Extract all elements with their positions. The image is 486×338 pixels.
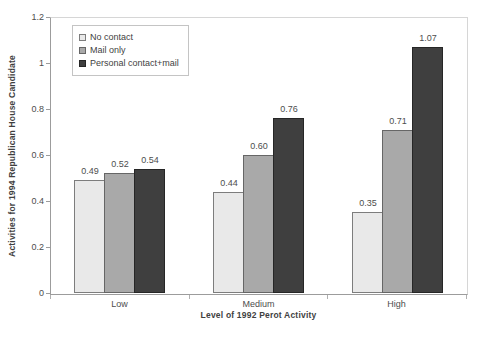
legend-row-personal-contact-mail: Personal contact+mail xyxy=(79,57,179,70)
legend: No contact Mail only Personal contact+ma… xyxy=(72,25,189,76)
y-tick-label: 0.4 xyxy=(0,196,44,207)
y-tick-label: 1.2 xyxy=(0,12,44,23)
y-tick-mark xyxy=(46,109,50,110)
y-tick-label: 0.2 xyxy=(0,242,44,253)
y-tick-mark xyxy=(46,155,50,156)
legend-label-personal-contact-mail: Personal contact+mail xyxy=(90,58,179,69)
y-tick-label: 1 xyxy=(0,58,44,69)
y-tick-label: 0.8 xyxy=(0,104,44,115)
y-tick-mark xyxy=(46,17,50,18)
y-tick-mark xyxy=(46,247,50,248)
y-tick-mark xyxy=(46,63,50,64)
legend-swatch-no-contact xyxy=(79,34,86,41)
legend-swatch-personal-contact-mail xyxy=(79,60,86,67)
y-tick-mark xyxy=(46,201,50,202)
bar-low-1 xyxy=(74,180,105,293)
bar-value-label: 0.76 xyxy=(269,104,309,115)
bar-high-1 xyxy=(352,212,383,293)
bar-medium-2 xyxy=(243,155,274,293)
bar-low-3 xyxy=(134,169,165,293)
bar-value-label: 0.54 xyxy=(130,155,170,166)
y-tick-label: 0.6 xyxy=(0,150,44,161)
legend-label-no-contact: No contact xyxy=(90,32,133,43)
bar-low-2 xyxy=(104,173,135,293)
bar-value-label: 1.07 xyxy=(408,33,448,44)
bar-medium-1 xyxy=(213,192,244,293)
legend-row-mail-only: Mail only xyxy=(79,44,179,57)
x-axis-title: Level of 1992 Perot Activity xyxy=(50,310,467,320)
y-tick-mark xyxy=(46,293,50,294)
y-tick-label: 0 xyxy=(0,288,44,299)
category-label-high: High xyxy=(327,299,466,310)
x-tick-mark xyxy=(466,295,467,299)
category-label-low: Low xyxy=(50,299,189,310)
category-label-medium: Medium xyxy=(189,299,328,310)
bar-high-2 xyxy=(382,130,413,293)
legend-swatch-mail-only xyxy=(79,47,86,54)
chart-canvas: Activities for 1994 Republican House Can… xyxy=(0,0,486,338)
legend-row-no-contact: No contact xyxy=(79,31,179,44)
legend-label-mail-only: Mail only xyxy=(90,45,126,56)
bar-medium-3 xyxy=(273,118,304,293)
bar-high-3 xyxy=(412,47,443,293)
